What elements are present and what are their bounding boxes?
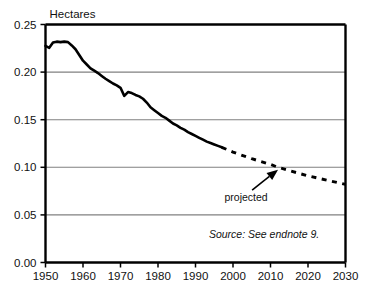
x-tick-label-1990: 1990 [183,270,209,282]
x-tick-label-1950: 1950 [33,270,59,282]
x-tick-label-2020: 2020 [295,270,321,282]
x-tick-label-1970: 1970 [108,270,134,282]
source-note-label: Source: See endnote 9. [209,228,319,240]
x-tick-label-2000: 2000 [220,270,246,282]
x-tick-label-1980: 1980 [145,270,171,282]
projected-label: projected [225,191,268,203]
x-tick-label-2010: 2010 [258,270,284,282]
y-tick-label-0.15: 0.15 [14,114,36,126]
y-tick-label-0.00: 0.00 [14,257,36,269]
x-tick-label-2030: 2030 [333,270,359,282]
y-axis-title: Hectares [50,8,96,20]
chart-container: 0.000.050.100.150.200.25 195019601970198… [0,0,367,293]
y-tick-label-0.20: 0.20 [14,66,36,78]
y-tick-label-0.05: 0.05 [14,209,36,221]
y-tick-label-0.25: 0.25 [14,19,36,31]
x-axis-tick-labels: 195019601970198019902000201020202030 [33,270,359,282]
chart-background [0,0,367,293]
hectares-per-person-line-chart: 0.000.050.100.150.200.25 195019601970198… [0,0,367,293]
x-tick-label-1960: 1960 [70,270,96,282]
y-tick-label-0.10: 0.10 [14,161,36,173]
